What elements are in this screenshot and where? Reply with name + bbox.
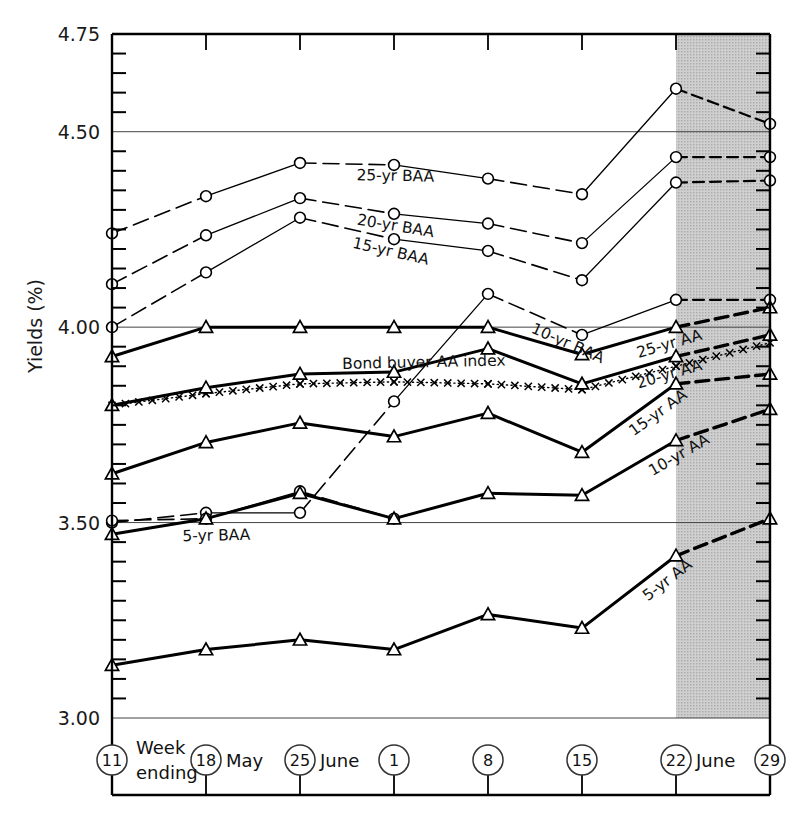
x-axis-tick-label: 11 xyxy=(97,745,127,775)
data-point-circle xyxy=(295,212,306,223)
yield-curve-chart: 4.754.504.003.503.00 11182518152229MayJu… xyxy=(0,0,809,828)
series-segment xyxy=(488,493,582,495)
y-tick-label: 4.50 xyxy=(58,121,100,143)
series-inline-label: Bond buyer AA index xyxy=(342,352,506,373)
x-label-number: 22 xyxy=(666,751,686,770)
week-ending-line2: ending xyxy=(136,762,198,783)
x-axis-tick-label: 29 xyxy=(755,745,785,775)
y-axis-title: Yields (%) xyxy=(24,279,46,374)
x-label-number: 15 xyxy=(572,751,592,770)
y-tick-label: 4.00 xyxy=(58,316,100,338)
data-point-circle xyxy=(483,246,494,257)
data-point-circle xyxy=(201,230,212,241)
data-point-circle xyxy=(389,396,400,407)
data-point-circle xyxy=(295,193,306,204)
x-axis-tick-label: 22 xyxy=(661,745,691,775)
x-label-number: 1 xyxy=(389,751,399,770)
data-point-circle xyxy=(295,158,306,169)
data-point-circle xyxy=(577,238,588,249)
x-axis-tick-label: 1 xyxy=(379,745,409,775)
x-axis-tick-label: 8 xyxy=(473,745,503,775)
x-month-label: June xyxy=(695,750,735,771)
y-tick-label: 4.75 xyxy=(58,23,100,45)
data-point-circle xyxy=(671,177,682,188)
series-inline-label: 25-yr BAA xyxy=(356,166,435,186)
data-point-circle xyxy=(671,294,682,305)
data-point-circle xyxy=(577,189,588,200)
x-axis-tick-label: 25 xyxy=(285,745,315,775)
x-label-number: 18 xyxy=(196,751,216,770)
data-point-circle xyxy=(577,275,588,286)
x-label-number: 8 xyxy=(483,751,493,770)
x-label-number: 11 xyxy=(102,751,122,770)
y-tick-label: 3.00 xyxy=(58,707,100,729)
data-point-circle xyxy=(483,173,494,184)
data-point-circle xyxy=(671,83,682,94)
data-point-circle xyxy=(201,191,212,202)
chart-canvas: 4.754.504.003.503.00 11182518152229MayJu… xyxy=(0,0,809,828)
data-point-circle xyxy=(201,267,212,278)
x-month-label: June xyxy=(319,750,359,771)
data-point-circle xyxy=(295,507,306,518)
x-month-label: May xyxy=(226,750,264,771)
data-point-circle xyxy=(483,289,494,300)
data-point-circle xyxy=(483,218,494,229)
week-ending-line1: Week xyxy=(136,737,186,758)
y-axis-title-text: Yields (%) xyxy=(24,279,46,374)
data-point-circle xyxy=(671,152,682,163)
x-label-number: 25 xyxy=(290,751,310,770)
y-tick-label: 3.50 xyxy=(58,512,100,534)
x-axis-tick-label: 15 xyxy=(567,745,597,775)
x-label-number: 29 xyxy=(760,751,780,770)
series-inline-label: 5-yr BAA xyxy=(182,526,251,545)
